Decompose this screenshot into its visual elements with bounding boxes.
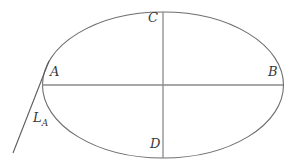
vertex-label-a: A: [50, 65, 59, 78]
tangent-label-base: L: [33, 110, 42, 125]
ellipse-diagram: A B C D LA: [0, 0, 295, 166]
vertex-label-c: C: [148, 11, 158, 24]
tangent-label-subscript: A: [42, 118, 49, 128]
tangent-line-at-a: [13, 61, 49, 153]
vertex-label-d: D: [150, 137, 160, 150]
vertex-label-b: B: [268, 65, 278, 78]
tangent-line-label: LA: [33, 111, 48, 128]
